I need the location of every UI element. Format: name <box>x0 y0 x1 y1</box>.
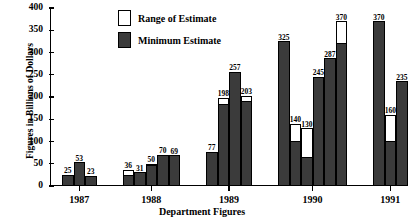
bar-range-segment <box>123 170 135 176</box>
bar: 370 <box>373 21 385 186</box>
legend-swatch-range-icon <box>118 10 131 26</box>
bar: 50 <box>146 164 158 186</box>
bar: 287 <box>324 58 336 186</box>
bar-value-label: 370 <box>373 14 384 22</box>
y-tick-label: 300 <box>29 48 43 58</box>
bar-value-label: 69 <box>171 148 179 156</box>
x-tick <box>390 186 391 191</box>
bar-value-label: 31 <box>136 165 144 173</box>
bar: 325 <box>278 41 290 186</box>
bar-range-segment <box>385 115 397 142</box>
bar: 160 <box>385 115 397 186</box>
bar: 31 <box>134 172 146 186</box>
y-tick <box>49 52 54 53</box>
bar: 130 <box>301 128 313 186</box>
y-tick-label: 200 <box>29 92 43 102</box>
x-tick <box>79 186 80 191</box>
bar-range-segment <box>336 21 348 44</box>
y-tick <box>49 185 54 186</box>
bar: 77 <box>206 152 218 186</box>
legend-swatch-minimum-icon <box>118 32 131 48</box>
bar-value-label: 160 <box>385 107 396 115</box>
bar-value-label: 245 <box>313 69 324 77</box>
bar: 245 <box>313 77 325 186</box>
legend-label-minimum: Minimum Estimate <box>138 35 221 46</box>
bar-range-segment <box>290 124 302 143</box>
bar: 203 <box>241 96 253 186</box>
bar-value-label: 325 <box>278 34 289 42</box>
bar-value-label: 130 <box>301 121 312 129</box>
y-tick <box>49 141 54 142</box>
bar: 23 <box>85 176 97 186</box>
bar: 140 <box>290 124 302 186</box>
y-tick <box>49 74 54 75</box>
x-tick <box>228 186 229 191</box>
y-tick <box>49 119 54 120</box>
bar-value-label: 203 <box>241 88 252 96</box>
bar-value-label: 77 <box>208 144 216 152</box>
bar-value-label: 50 <box>148 156 156 164</box>
x-tick-label: 1989 <box>219 194 239 205</box>
bar: 36 <box>123 170 135 186</box>
chart-legend: Range of Estimate Minimum Estimate <box>118 10 221 54</box>
bar-range-segment <box>241 96 253 103</box>
bar-range-segment <box>301 128 313 158</box>
bar: 370 <box>336 21 348 186</box>
y-tick-label: 100 <box>29 137 43 147</box>
bar-value-label: 198 <box>218 90 229 98</box>
bar-range-segment <box>218 98 230 105</box>
y-tick <box>49 30 54 31</box>
y-tick-label: 150 <box>29 115 43 125</box>
bar: 53 <box>74 162 86 186</box>
x-tick <box>151 186 152 191</box>
x-axis-title: Department Figures <box>0 206 404 217</box>
y-tick <box>49 7 54 8</box>
bar: 69 <box>169 155 181 186</box>
bar: 257 <box>229 72 241 186</box>
legend-item-minimum: Minimum Estimate <box>118 32 221 48</box>
y-tick-label: 0 <box>38 181 43 191</box>
y-tick <box>49 96 54 97</box>
x-tick <box>312 186 313 191</box>
bar-value-label: 70 <box>159 147 167 155</box>
bar: 70 <box>157 155 169 186</box>
bar-value-label: 23 <box>87 168 95 176</box>
bar-value-label: 257 <box>229 64 240 72</box>
y-tick-label: 350 <box>29 26 43 36</box>
bar-value-label: 370 <box>336 14 347 22</box>
bar-value-label: 25 <box>64 167 72 175</box>
y-tick <box>49 163 54 164</box>
bar: 235 <box>396 81 408 186</box>
bar-value-label: 287 <box>324 51 335 59</box>
bar-value-label: 140 <box>290 116 301 124</box>
legend-label-range: Range of Estimate <box>138 13 216 24</box>
x-tick-label: 1990 <box>303 194 323 205</box>
y-tick-label: 400 <box>29 3 43 13</box>
y-tick-label: 250 <box>29 70 43 80</box>
bar-value-label: 53 <box>76 155 84 163</box>
bar-value-label: 36 <box>125 162 133 170</box>
bar: 198 <box>218 98 230 186</box>
bar-value-label: 235 <box>396 74 407 82</box>
y-tick-label: 50 <box>34 159 44 169</box>
bar: 25 <box>62 175 74 186</box>
x-tick-label: 1991 <box>380 194 400 205</box>
legend-item-range: Range of Estimate <box>118 10 221 26</box>
x-tick-label: 1988 <box>141 194 161 205</box>
x-tick-label: 1987 <box>69 194 89 205</box>
